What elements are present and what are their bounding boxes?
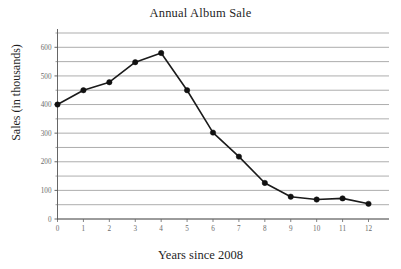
y-tick-label-500: 500 <box>41 73 52 81</box>
data-point-marker <box>81 88 86 93</box>
x-tick-label-3: 3 <box>133 225 137 233</box>
x-tick-label-12: 12 <box>365 225 373 233</box>
chart-page: Annual Album Sale Sales (in thousands) Y… <box>0 0 401 269</box>
data-point-marker <box>366 201 371 206</box>
y-tick-label-600: 600 <box>41 44 52 52</box>
x-tick-label-11: 11 <box>339 225 346 233</box>
data-point-marker <box>210 130 215 135</box>
y-tick-label-400: 400 <box>41 101 52 109</box>
data-point-marker <box>158 50 163 55</box>
data-point-marker <box>236 154 241 159</box>
y-tick-label-300: 300 <box>41 130 52 138</box>
data-point-marker <box>340 196 345 201</box>
data-point-marker <box>107 80 112 85</box>
y-tick-label-0: 0 <box>48 216 52 224</box>
x-tick-label-2: 2 <box>108 225 112 233</box>
x-tick-label-9: 9 <box>289 225 293 233</box>
data-point-marker <box>55 102 60 107</box>
x-tick-label-10: 10 <box>313 225 321 233</box>
y-tick-label-200: 200 <box>41 158 52 166</box>
data-point-marker <box>288 194 293 199</box>
y-tick-label-100: 100 <box>41 187 52 195</box>
gridlines-group <box>58 33 390 219</box>
x-tick-label-1: 1 <box>82 225 86 233</box>
x-tick-label-8: 8 <box>263 225 267 233</box>
data-point-marker <box>314 197 319 202</box>
data-point-marker <box>133 59 138 64</box>
x-tick-label-0: 0 <box>56 225 60 233</box>
x-tick-label-4: 4 <box>159 225 163 233</box>
y-tick-labels: 0100200300400500600 <box>41 33 58 224</box>
x-tick-label-5: 5 <box>185 225 189 233</box>
line-chart-plot: 0100200300400500600 0123456789101112 <box>0 0 401 269</box>
data-point-marker <box>184 88 189 93</box>
x-tick-label-7: 7 <box>237 225 241 233</box>
x-tick-labels: 0123456789101112 <box>56 219 373 233</box>
data-point-markers <box>55 50 371 206</box>
x-tick-label-6: 6 <box>211 225 215 233</box>
data-point-marker <box>262 180 267 185</box>
